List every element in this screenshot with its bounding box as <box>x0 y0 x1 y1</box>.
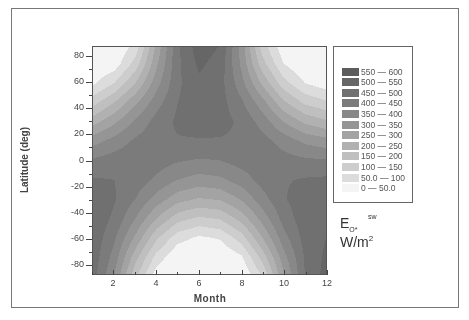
x-tick-label: 12 <box>317 278 337 288</box>
y-tick <box>86 161 92 162</box>
y-tick <box>86 213 92 214</box>
color-legend: 550 — 600500 — 550450 — 500400 — 450350 … <box>333 46 413 203</box>
legend-label: 50.0 — 100 <box>361 173 405 183</box>
y-tick <box>89 174 92 175</box>
legend-swatch <box>342 110 359 118</box>
y-tick-label: 20 <box>56 128 84 138</box>
legend-swatch <box>342 131 359 139</box>
legend-label: 450 — 500 <box>361 88 403 98</box>
legend-swatch <box>342 89 359 97</box>
unit-exponent: 2 <box>369 234 373 243</box>
y-tick-label: -60 <box>56 233 84 243</box>
legend-label: 500 — 550 <box>361 77 403 87</box>
y-tick <box>86 108 92 109</box>
contour-canvas <box>93 47 326 274</box>
legend-entry: 500 — 550 <box>342 78 403 87</box>
legend-entry: 350 — 400 <box>342 109 403 118</box>
legend-swatch <box>342 121 359 129</box>
y-tick <box>86 82 92 83</box>
y-tick <box>86 56 92 57</box>
legend-swatch <box>342 68 359 76</box>
y-tick-label: 40 <box>56 102 84 112</box>
x-tick <box>135 272 136 275</box>
x-tick-label: 4 <box>146 278 166 288</box>
legend-entry: 250 — 300 <box>342 131 403 140</box>
y-tick-label: -80 <box>56 259 84 269</box>
x-tick <box>199 270 200 275</box>
x-tick <box>92 272 93 275</box>
legend-swatch <box>342 152 359 160</box>
y-tick-label: -40 <box>56 207 84 217</box>
legend-label: 550 — 600 <box>361 67 403 77</box>
x-tick <box>327 270 328 275</box>
unit-symbol: E <box>340 215 349 231</box>
x-tick-label: 6 <box>189 278 209 288</box>
legend-entry: 450 — 500 <box>342 88 403 97</box>
x-tick-label: 2 <box>103 278 123 288</box>
y-tick <box>86 187 92 188</box>
y-tick <box>89 252 92 253</box>
unit-subscript: O* <box>349 226 357 233</box>
y-tick-label: -20 <box>56 181 84 191</box>
legend-entry: 150 — 200 <box>342 152 403 161</box>
legend-swatch <box>342 99 359 107</box>
unit-text: W/m <box>340 234 369 250</box>
legend-label: 150 — 200 <box>361 151 403 161</box>
x-tick-label: 8 <box>232 278 252 288</box>
x-tick <box>113 270 114 275</box>
y-tick <box>89 226 92 227</box>
legend-label: 0 — 50.0 <box>361 183 396 193</box>
colorbar-unit-label: W/m2 <box>340 234 373 250</box>
x-tick <box>220 272 221 275</box>
legend-label: 100 — 150 <box>361 162 403 172</box>
y-tick <box>86 239 92 240</box>
legend-swatch <box>342 174 359 182</box>
y-tick <box>86 265 92 266</box>
legend-label: 200 — 250 <box>361 141 403 151</box>
y-tick-label: 60 <box>56 76 84 86</box>
legend-swatch <box>342 184 359 192</box>
y-tick <box>89 121 92 122</box>
y-tick <box>89 200 92 201</box>
legend-swatch <box>342 78 359 86</box>
legend-entry: 50.0 — 100 <box>342 173 405 182</box>
legend-entry: 100 — 150 <box>342 162 403 171</box>
unit-superscript: sw <box>368 213 377 220</box>
legend-label: 350 — 400 <box>361 109 403 119</box>
x-tick <box>306 272 307 275</box>
x-tick <box>242 270 243 275</box>
x-tick <box>156 270 157 275</box>
x-tick <box>284 270 285 275</box>
legend-label: 300 — 350 <box>361 120 403 130</box>
x-tick-label: 10 <box>274 278 294 288</box>
x-tick <box>177 272 178 275</box>
legend-entry: 200 — 250 <box>342 141 403 150</box>
legend-swatch <box>342 163 359 171</box>
y-axis-title: Latitude (deg) <box>19 127 30 193</box>
legend-swatch <box>342 142 359 150</box>
y-tick <box>89 95 92 96</box>
y-tick-label: 80 <box>56 50 84 60</box>
contour-plot-area <box>92 46 327 275</box>
y-tick-label: 0 <box>56 155 84 165</box>
y-tick <box>89 147 92 148</box>
legend-entry: 300 — 350 <box>342 120 403 129</box>
legend-entry: 0 — 50.0 <box>342 184 396 193</box>
x-tick <box>263 272 264 275</box>
colorbar-quantity-label: EO*sw <box>340 215 358 233</box>
x-axis-title: Month <box>194 293 227 304</box>
y-tick <box>86 134 92 135</box>
y-tick <box>89 69 92 70</box>
legend-entry: 550 — 600 <box>342 67 403 76</box>
legend-label: 250 — 300 <box>361 130 403 140</box>
legend-entry: 400 — 450 <box>342 99 403 108</box>
legend-label: 400 — 450 <box>361 98 403 108</box>
